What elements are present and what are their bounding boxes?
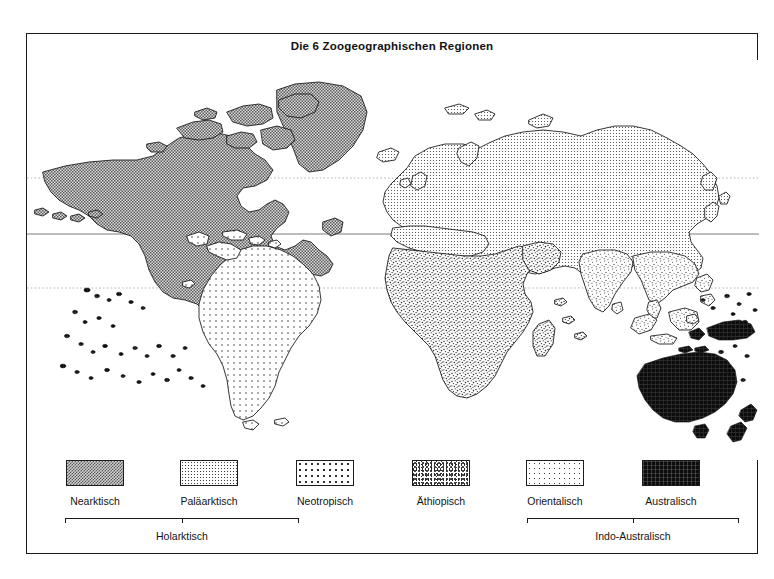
legend-item-oriental: Orientalisch bbox=[495, 460, 615, 507]
legend-label-oriental: Orientalisch bbox=[495, 495, 615, 507]
legend-swatch-nearctic bbox=[66, 460, 124, 486]
baffin-island-w bbox=[227, 132, 257, 148]
legend-group-label-holarctic: Holarktisch bbox=[65, 530, 299, 542]
legend-item-palearctic: Paläarktisch bbox=[149, 460, 269, 507]
legend-label-australian: Australisch bbox=[611, 495, 731, 507]
legend-label-palearctic: Paläarktisch bbox=[149, 495, 269, 507]
world-map bbox=[27, 60, 759, 460]
legend-group-label-indo-australian: Indo-Australisch bbox=[527, 530, 739, 542]
legend-swatch-palearctic bbox=[180, 460, 238, 486]
legend-item-ethiopian: Äthiopisch bbox=[381, 460, 501, 507]
legend-item-nearctic: Nearktisch bbox=[35, 460, 155, 507]
legend-item-australian: Australisch bbox=[611, 460, 731, 507]
legend-group-tick-indo-australian bbox=[633, 518, 634, 523]
world-map-svg bbox=[27, 60, 759, 460]
legend-item-neotropic: Neotropisch bbox=[265, 460, 385, 507]
legend-swatch-neotropic bbox=[296, 460, 354, 486]
legend-swatch-ethiopian bbox=[412, 460, 470, 486]
legend-label-ethiopian: Äthiopisch bbox=[381, 495, 501, 507]
legend-label-neotropic: Neotropisch bbox=[265, 495, 385, 507]
legend-swatch-australian bbox=[642, 460, 700, 486]
legend-swatch-oriental bbox=[526, 460, 584, 486]
legend: Nearktisch Paläarktisch Neotropisch Äthi… bbox=[27, 452, 759, 552]
legend-group-tick-holarctic bbox=[182, 518, 183, 523]
legend-label-nearctic: Nearktisch bbox=[35, 495, 155, 507]
figure-title: Die 6 Zoogeographischen Regionen bbox=[27, 40, 757, 52]
figure-panel: Die 6 Zoogeographischen Regionen bbox=[26, 33, 758, 554]
